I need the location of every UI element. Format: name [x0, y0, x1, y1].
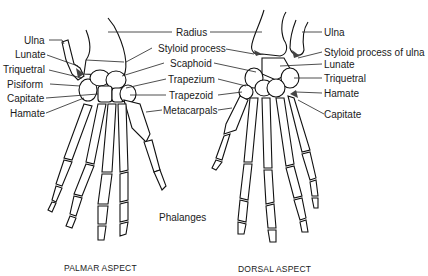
label-palmar-ulna: Ulna: [24, 35, 45, 46]
caption-dorsal-aspect: DORSAL ASPECT: [238, 264, 311, 274]
label-dorsal-triquetral: Triquetral: [324, 73, 366, 84]
hand-bones-diagram: Ulna Lunate Triquetral Pisiform Capitate…: [0, 0, 428, 276]
label-phalanges: Phalanges: [159, 212, 206, 223]
label-palmar-hamate: Hamate: [10, 108, 45, 119]
label-dorsal-hamate: Hamate: [324, 88, 359, 99]
label-radius: Radius: [176, 27, 207, 38]
dorsal-hand-illustration: [212, 10, 318, 242]
label-metacarpals: Metacarpals: [163, 105, 217, 116]
label-dorsal-lunate: Lunate: [324, 59, 355, 70]
label-palmar-lunate: Lunate: [15, 49, 46, 60]
label-palmar-triquetral: Triquetral: [3, 64, 45, 75]
label-trapezoid: Trapezoid: [169, 90, 213, 101]
label-palmar-capitate: Capitate: [7, 93, 44, 104]
label-trapezium: Trapezium: [168, 74, 215, 85]
palmar-hand-illustration: [48, 18, 166, 240]
caption-palmar-aspect: PALMAR ASPECT: [64, 263, 137, 273]
label-styloid-process: Styloid process: [158, 43, 226, 54]
label-dorsal-ulna: Ulna: [324, 27, 345, 38]
label-palmar-pisiform: Pisiform: [7, 79, 43, 90]
label-styloid-process-of-ulna: Styloid process of ulna: [324, 47, 425, 58]
skeleton-drawing: [0, 0, 428, 276]
label-dorsal-capitate: Capitate: [324, 109, 361, 120]
label-scaphoid: Scaphoid: [170, 58, 212, 69]
